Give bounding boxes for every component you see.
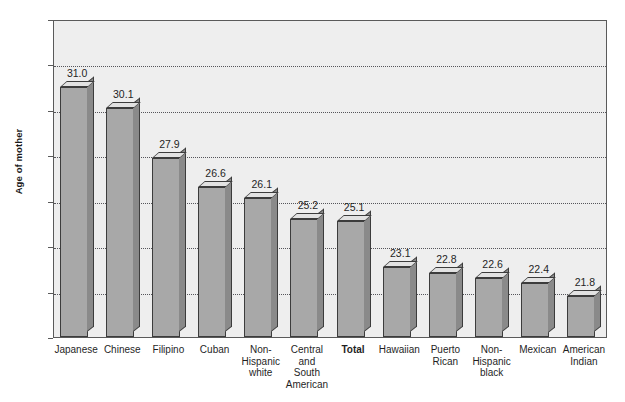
bar-front-face (337, 221, 365, 337)
bar-side-face (225, 177, 232, 332)
bar-side-face (364, 211, 371, 332)
bar-value-label: 23.1 (374, 247, 426, 259)
bar-value-label: 26.6 (190, 167, 242, 179)
bar-side-face (87, 77, 94, 332)
bar-value-label: 22.4 (513, 263, 565, 275)
bar-value-label: 22.6 (467, 258, 519, 270)
bar (429, 273, 464, 337)
x-axis-label: AmericanIndian (551, 344, 617, 367)
bar-value-label: 22.8 (420, 253, 472, 265)
bar-side-face (179, 147, 186, 332)
bar-side-face (410, 256, 417, 332)
bar (383, 267, 418, 337)
y-tick-mark (48, 338, 53, 339)
bar (60, 87, 95, 337)
bar (244, 198, 279, 337)
bar-value-label: 30.1 (97, 88, 149, 100)
bar-side-face (317, 208, 324, 332)
bar-front-face (383, 267, 411, 337)
bar-front-face (152, 158, 180, 337)
bar-front-face (475, 278, 503, 337)
bar-side-face (271, 188, 278, 332)
bar-front-face (429, 273, 457, 337)
bar-front-face (244, 198, 272, 337)
bar-top-face (106, 102, 141, 108)
bar (567, 296, 602, 337)
bar-value-label: 25.1 (328, 201, 380, 213)
bar-value-label: 27.9 (143, 138, 195, 150)
bar (106, 108, 141, 337)
bar (198, 187, 233, 337)
bar-front-face (198, 187, 226, 337)
gridline (54, 66, 606, 67)
bar-front-face (567, 296, 595, 337)
bar-value-label: 31.0 (51, 67, 103, 79)
bar-front-face (521, 283, 549, 338)
bar-front-face (290, 219, 318, 337)
bar (152, 158, 187, 337)
bar-value-label: 25.2 (282, 199, 334, 211)
bar (521, 283, 556, 338)
bar-value-label: 21.8 (559, 276, 611, 288)
bar-value-label: 26.1 (236, 178, 288, 190)
bar (337, 221, 372, 337)
bar-front-face (106, 108, 134, 337)
bar (290, 219, 325, 337)
plot-area: 31.030.127.926.626.125.225.123.122.822.6… (53, 20, 607, 338)
bar-top-face (383, 261, 418, 267)
bar (475, 278, 510, 337)
bar-side-face (456, 263, 463, 332)
bar-front-face (60, 87, 88, 337)
bar-side-face (133, 97, 140, 332)
bar-chart: Age of mother 2022242628303234 31.030.12… (0, 0, 625, 402)
